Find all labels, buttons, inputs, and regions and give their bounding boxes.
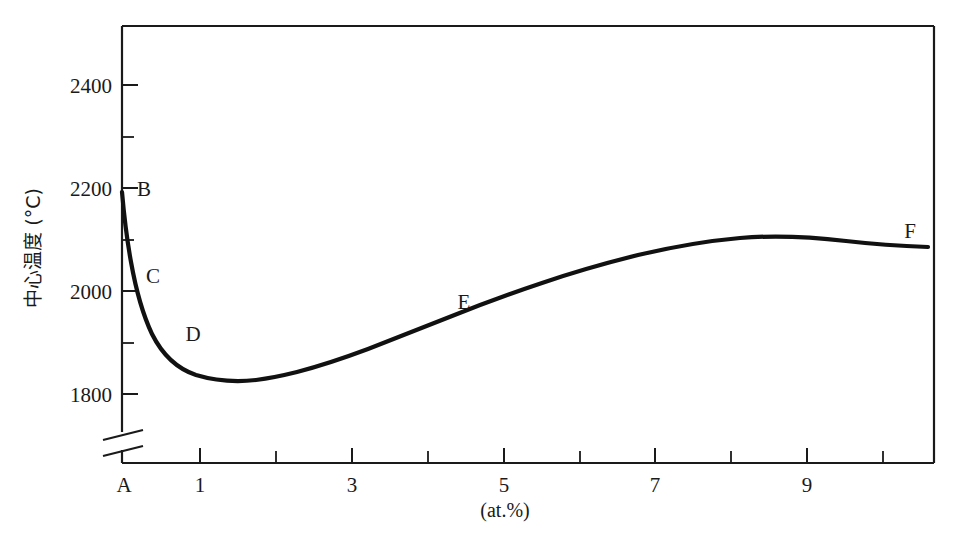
chart-svg: 2400 2200 2000 1800 A 1 3 5 7 9 (at.%) 中…	[0, 0, 955, 546]
y-tick-label-2400: 2400	[70, 74, 112, 98]
plot-frame	[122, 26, 934, 463]
temperature-curve	[122, 192, 928, 381]
x-tick-label-5: 5	[499, 473, 510, 497]
curve-point-label-b: B	[137, 177, 151, 201]
chart-figure: 2400 2200 2000 1800 A 1 3 5 7 9 (at.%) 中…	[0, 0, 955, 546]
y-tick-label-1800: 1800	[70, 383, 112, 407]
x-tick-label-origin-a: A	[116, 473, 132, 497]
y-tick-label-2200: 2200	[70, 177, 112, 201]
y-axis-title: 中心温度 (°C)	[22, 188, 44, 308]
curve-point-label-d: D	[185, 322, 200, 346]
x-tick-label-1: 1	[195, 473, 206, 497]
curve-point-label-e: E	[458, 290, 471, 314]
x-tick-label-3: 3	[347, 473, 358, 497]
curve-point-label-f: F	[904, 219, 916, 243]
x-axis-title: (at.%)	[480, 499, 529, 522]
y-tick-label-2000: 2000	[70, 280, 112, 304]
x-tick-label-7: 7	[650, 473, 661, 497]
x-axis-ticks	[200, 448, 883, 463]
curve-point-label-c: C	[146, 264, 160, 288]
x-tick-label-9: 9	[802, 473, 813, 497]
